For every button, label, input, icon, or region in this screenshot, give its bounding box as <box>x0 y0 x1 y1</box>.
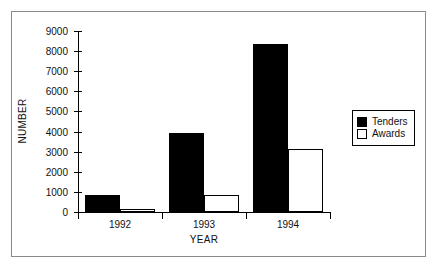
x-tick <box>330 212 331 219</box>
bar-chart-figure: 0100020003000400050006000700080009000 19… <box>0 0 440 272</box>
hollow-square-icon <box>357 129 367 139</box>
y-tick-label: 9000 <box>46 27 68 37</box>
y-tick: 4000 <box>74 132 82 133</box>
plot-area: 0100020003000400050006000700080009000 <box>78 31 330 212</box>
y-tick-label: 8000 <box>46 47 68 57</box>
filled-square-icon <box>357 117 367 127</box>
y-tick: 8000 <box>74 51 82 52</box>
y-tick-label: 2000 <box>46 168 68 178</box>
x-tick <box>246 212 247 219</box>
y-tick: 5000 <box>74 111 82 112</box>
y-tick-label: 3000 <box>46 148 68 158</box>
y-tick: 7000 <box>74 71 82 72</box>
y-tick-label: 0 <box>62 208 68 218</box>
x-tick-label-1994: 1994 <box>277 219 299 230</box>
legend-label-tenders: Tenders <box>372 117 408 127</box>
y-tick: 2000 <box>74 172 82 173</box>
legend-item-awards: Awards <box>357 129 408 139</box>
bar-tenders-1994 <box>253 44 288 212</box>
y-tick-label: 5000 <box>46 107 68 117</box>
x-tick <box>78 212 79 219</box>
y-tick: 9000 <box>74 31 82 32</box>
x-tick-label-1992: 1992 <box>109 219 131 230</box>
legend-item-tenders: Tenders <box>357 117 408 127</box>
y-tick: 1000 <box>74 192 82 193</box>
y-tick-label: 1000 <box>46 188 68 198</box>
bar-awards-1994 <box>288 149 323 212</box>
bar-awards-1993 <box>204 195 239 212</box>
x-axis-line <box>78 212 330 213</box>
x-tick <box>162 212 163 219</box>
y-tick: 3000 <box>74 152 82 153</box>
y-tick-label: 7000 <box>46 67 68 77</box>
y-tick-label: 4000 <box>46 128 68 138</box>
bar-tenders-1993 <box>169 133 204 212</box>
chart-legend: Tenders Awards <box>352 110 415 146</box>
bar-tenders-1992 <box>85 195 120 212</box>
legend-label-awards: Awards <box>372 129 405 139</box>
x-tick-label-1993: 1993 <box>193 219 215 230</box>
y-axis-title: NUMBER <box>17 98 28 143</box>
bar-awards-1992 <box>120 209 155 212</box>
y-tick: 6000 <box>74 91 82 92</box>
y-tick-label: 6000 <box>46 87 68 97</box>
x-axis-title: YEAR <box>78 234 330 245</box>
